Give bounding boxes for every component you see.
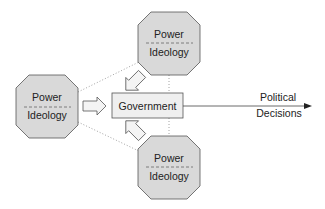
left-ideology-label: Ideology [27, 109, 67, 121]
government-label: Government [119, 100, 177, 112]
octagon-left [16, 75, 78, 138]
node-bottom [138, 136, 200, 199]
block-arrow-right-icon [83, 97, 106, 115]
octagon-top [138, 12, 200, 75]
node-top [138, 12, 200, 75]
decisions-label: Decisions [256, 107, 302, 119]
octagon-bottom [138, 136, 200, 199]
top-ideology-label: Ideology [149, 46, 189, 58]
diagram-canvas: Power Ideology Power Ideology Power Ideo… [0, 0, 325, 209]
node-left [16, 75, 78, 138]
left-power-label: Power [32, 91, 62, 103]
block-arrow-upleft-icon [119, 114, 148, 143]
block-arrow-downleft-icon [119, 68, 148, 97]
bottom-ideology-label: Ideology [149, 170, 189, 182]
arrowhead-icon [304, 103, 312, 109]
political-label: Political [260, 91, 296, 103]
top-power-label: Power [154, 28, 184, 40]
bottom-power-label: Power [154, 152, 184, 164]
